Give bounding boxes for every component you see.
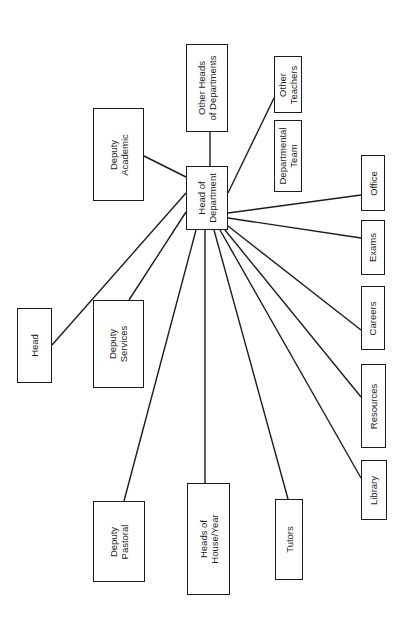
node-label-heads-of-house-year: Heads of House/Year [198, 514, 220, 563]
edge-exams [228, 218, 361, 238]
org-diagram: Head Deputy Academic Deputy Services Dep… [0, 0, 409, 624]
node-label-deputy-services: Deputy Services [108, 326, 130, 362]
node-other-teachers: Other Teachers [274, 56, 302, 113]
node-label-deputy-academic: Deputy Academic [108, 134, 130, 176]
node-label-resources: Resources [368, 383, 379, 428]
node-office: Office [361, 155, 385, 211]
edge-library [220, 230, 361, 478]
node-deputy-academic: Deputy Academic [93, 108, 144, 201]
node-heads-of-house-year: Heads of House/Year [187, 483, 230, 595]
node-label-library: Library [369, 475, 380, 504]
node-library: Library [361, 460, 387, 520]
edge-tutors [214, 230, 288, 499]
node-other-heads-of-departments: Other Heads of Departments [186, 44, 228, 132]
node-label-other-heads: Other Heads of Departments [196, 56, 218, 121]
node-head: Head [17, 308, 52, 383]
node-label-head: Head [29, 334, 40, 357]
node-label-tutors: Tutors [284, 526, 295, 553]
node-deputy-pastoral: Deputy Pastoral [93, 501, 145, 582]
node-label-departmental-team: Departmental Team [277, 127, 299, 184]
node-label-deputy-pastoral: Deputy Pastoral [108, 524, 130, 559]
node-label-other-teachers: Other Teachers [277, 65, 299, 104]
node-label-careers: Careers [368, 301, 379, 335]
node-careers: Careers [361, 286, 385, 350]
edge-office [228, 195, 361, 213]
node-deputy-services: Deputy Services [93, 300, 144, 388]
node-head-of-department: Head of Department [186, 166, 228, 230]
node-exams: Exams [361, 220, 385, 275]
node-departmental-team: Departmental Team [274, 120, 302, 192]
edge-other-teachers [228, 98, 274, 193]
edge-deputy-academic [144, 156, 186, 177]
node-label-head-of-department: Head of Department [196, 173, 218, 223]
node-tutors: Tutors [275, 499, 303, 580]
node-label-exams: Exams [368, 233, 379, 262]
node-label-office: Office [368, 171, 379, 196]
node-resources: Resources [361, 364, 386, 448]
